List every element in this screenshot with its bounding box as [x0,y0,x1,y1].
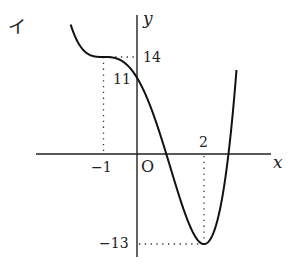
x-tick-2: 2 [199,134,208,150]
y-tick-neg13: −13 [99,235,129,251]
origin-label: O [141,157,154,176]
graph: イ y x O 14 11 −13 −1 2 [0,0,306,267]
x-tick-neg1: −1 [91,159,112,175]
y-tick-14: 14 [143,49,161,65]
x-axis-label: x [273,152,283,172]
y-tick-11: 11 [113,71,131,87]
figure-label: イ [8,16,26,37]
y-axis-label: y [142,8,153,28]
